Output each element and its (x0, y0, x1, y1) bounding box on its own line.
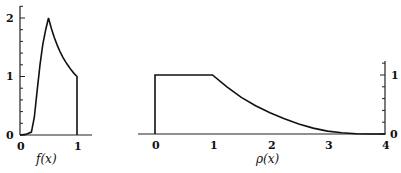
figure: 0 1 2 0 1 f(x) 1 0 0 1 2 3 4 ρ(x) (0, 0, 401, 173)
right-x-label-1: 1 (210, 139, 218, 152)
left-x-label-0: 0 (17, 140, 25, 153)
right-x-label-0: 0 (152, 139, 160, 152)
right-x-label-2: 2 (268, 139, 276, 152)
right-plot: 1 0 0 1 2 3 4 ρ(x) (138, 61, 399, 166)
left-curve-f (20, 18, 77, 135)
left-y-ticks (20, 6, 25, 135)
left-x-axis-title: f(x) (35, 152, 57, 166)
right-x-label-3: 3 (325, 139, 333, 152)
left-y-label-0: 0 (6, 129, 14, 142)
left-y-label-2: 2 (6, 12, 14, 25)
left-plot: 0 1 2 0 1 f(x) (6, 6, 92, 166)
left-x-label-1: 1 (74, 140, 82, 153)
right-y-label-1: 1 (391, 69, 399, 82)
right-curve-rho (155, 75, 385, 134)
right-y-ticks (380, 63, 385, 134)
left-y-label-1: 1 (6, 70, 14, 83)
right-x-label-4: 4 (382, 139, 390, 152)
right-x-axis-title: ρ(x) (255, 152, 280, 166)
right-y-label-0: 0 (390, 128, 398, 141)
